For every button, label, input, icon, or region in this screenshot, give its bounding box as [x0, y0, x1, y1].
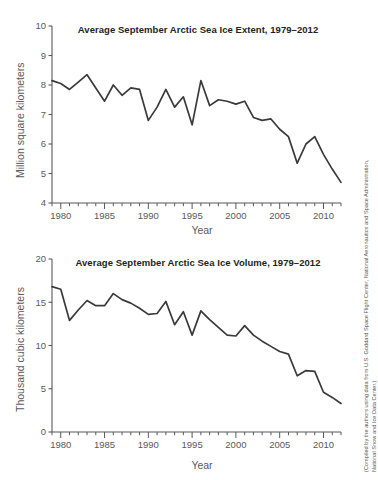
x-tick-label: 1980	[50, 439, 71, 450]
y-tick-label: 6	[41, 138, 46, 149]
x-tick-label: 2010	[313, 210, 334, 221]
y-tick-label: 9	[41, 50, 46, 61]
x-tick-label: 2000	[225, 210, 246, 221]
y-tick-label: 10	[35, 20, 46, 31]
y-tick-label: 7	[41, 109, 46, 120]
data-series-line	[52, 75, 341, 183]
x-tick-label: 2005	[269, 439, 290, 450]
x-tick-label: 1985	[94, 210, 115, 221]
source-credit-line-1: (Compiled by the authors using data from…	[363, 160, 371, 472]
figure-container: 456789101980198519901995200020052010 Ave…	[0, 0, 378, 480]
x-axis-label-extent: Year	[52, 224, 352, 236]
chart-sea-ice-volume-plot: 051015201980198519901995200020052010	[0, 240, 348, 480]
x-tick-label: 1995	[182, 210, 203, 221]
y-tick-label: 8	[41, 79, 46, 90]
chart-title-volume: Average September Arctic Sea Ice Volume,…	[58, 257, 338, 268]
y-tick-label: 15	[35, 297, 46, 308]
x-tick-label: 2000	[225, 439, 246, 450]
chart-sea-ice-volume: 051015201980198519901995200020052010	[0, 240, 348, 480]
chart-title-extent: Average September Arctic Sea Ice Extent,…	[58, 24, 338, 35]
y-tick-label: 0	[41, 426, 46, 437]
x-tick-label: 1985	[94, 439, 115, 450]
x-tick-label: 2010	[313, 439, 334, 450]
y-axis-label-volume: Thousand cubic kilometers	[14, 287, 26, 412]
source-credit-line-2: National Snow and Ice Data Center.)	[371, 381, 378, 473]
x-tick-label: 1990	[138, 210, 159, 221]
x-tick-label: 2005	[269, 210, 290, 221]
y-tick-label: 4	[41, 197, 46, 208]
y-tick-label: 10	[35, 340, 46, 351]
x-tick-label: 1995	[182, 439, 203, 450]
x-tick-label: 1990	[138, 439, 159, 450]
y-axis-label-extent: Million square kilometers	[14, 62, 26, 178]
y-tick-label: 5	[41, 383, 46, 394]
chart-sea-ice-extent: 456789101980198519901995200020052010 Ave…	[0, 0, 348, 240]
x-tick-label: 1980	[50, 210, 71, 221]
x-axis-label-volume: Year	[52, 459, 352, 471]
chart-sea-ice-extent-plot: 456789101980198519901995200020052010	[0, 0, 348, 240]
data-series-line	[52, 287, 341, 404]
y-tick-label: 5	[41, 168, 46, 179]
y-tick-label: 20	[35, 253, 46, 264]
